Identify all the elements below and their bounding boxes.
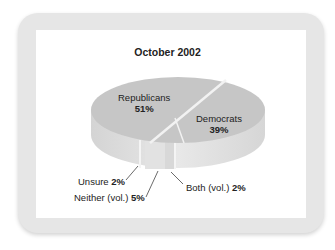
leader-neither bbox=[146, 171, 158, 197]
label-democrats: Democrats 39% bbox=[196, 113, 242, 135]
label-republicans: Republicans 51% bbox=[118, 92, 170, 114]
label-republicans-name: Republicans bbox=[118, 92, 170, 103]
label-both-value: 2% bbox=[232, 182, 246, 193]
slice-edge-unsure bbox=[139, 140, 141, 168]
label-unsure-value: 2% bbox=[111, 176, 125, 187]
label-neither-name: Neither (vol.) bbox=[74, 192, 128, 203]
label-unsure: Unsure 2% bbox=[78, 176, 125, 187]
label-republicans-value: 51% bbox=[135, 103, 154, 114]
label-both-name: Both (vol.) bbox=[186, 182, 229, 193]
label-unsure-name: Unsure bbox=[78, 176, 109, 187]
label-both: Both (vol.) 2% bbox=[186, 182, 246, 193]
leader-unsure bbox=[126, 166, 138, 180]
leader-both bbox=[171, 172, 183, 184]
label-neither-value: 5% bbox=[131, 192, 145, 203]
label-democrats-value: 39% bbox=[209, 124, 228, 135]
label-democrats-name: Democrats bbox=[196, 113, 242, 124]
pie-chart bbox=[0, 0, 335, 250]
label-neither: Neither (vol.) 5% bbox=[74, 192, 145, 203]
